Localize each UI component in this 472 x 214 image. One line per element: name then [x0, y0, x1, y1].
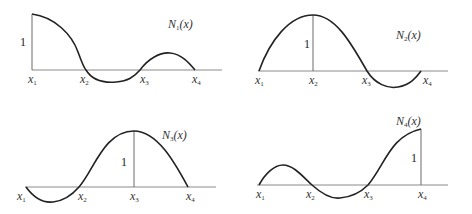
node-label-x3: x3 — [139, 72, 149, 87]
function-label: N2(x) — [395, 28, 421, 43]
panel-n1: 1 N1(x) x1 x2 x3 x4 — [20, 14, 222, 87]
unit-label: 1 — [121, 155, 127, 169]
function-label: N4(x) — [395, 114, 421, 129]
unit-label: 1 — [304, 37, 310, 51]
function-label: N1(x) — [167, 17, 193, 32]
node-label-x2: x2 — [308, 73, 318, 88]
curve-n4 — [259, 129, 421, 198]
node-label-x1: x1 — [255, 187, 265, 202]
node-label-x4: x4 — [422, 73, 432, 88]
curve-n2 — [259, 15, 421, 87]
shape-functions-diagram: 1 N1(x) x1 x2 x3 x4 1 N2(x) x1 x2 x3 x4 … — [0, 0, 472, 214]
panel-n2: 1 N2(x) x1 x2 x3 x4 — [254, 15, 448, 88]
node-label-x2: x2 — [77, 189, 87, 204]
node-label-x2: x2 — [79, 72, 89, 87]
unit-label: 1 — [411, 151, 417, 165]
panel-n3: 1 N3(x) x1 x2 x3 x4 — [16, 128, 216, 204]
unit-label: 1 — [20, 35, 26, 49]
function-label: N3(x) — [161, 128, 187, 143]
node-label-x4: x4 — [185, 189, 195, 204]
node-label-x1: x1 — [254, 73, 264, 88]
node-label-x4: x4 — [191, 72, 201, 87]
node-label-x1: x1 — [27, 72, 37, 87]
panel-n4: 1 N4(x) x1 x2 x3 x4 — [255, 114, 448, 202]
node-label-x4: x4 — [417, 187, 427, 202]
node-label-x3: x3 — [363, 187, 373, 202]
node-label-x3: x3 — [129, 189, 139, 204]
node-label-x1: x1 — [16, 189, 26, 204]
node-label-x2: x2 — [305, 187, 315, 202]
